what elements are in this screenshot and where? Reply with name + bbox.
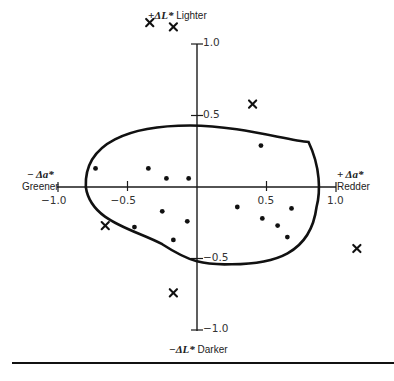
y-negative-symbol: −ΔL*: [169, 343, 195, 355]
rejected-point-cross-icon: [170, 289, 177, 296]
accepted-point: [275, 223, 280, 228]
accepted-point: [146, 166, 151, 171]
rejected-point-cross-icon: [249, 100, 256, 107]
accepted-point: [186, 176, 191, 181]
rejected-point-cross-icon: [102, 222, 109, 229]
accepted-point: [164, 176, 169, 181]
y-positive-title: +ΔL* Lighter: [148, 10, 207, 21]
rejected-points: [102, 19, 361, 296]
x-positive-symbol: + Δa*: [337, 169, 370, 180]
x-positive-title: + Δa* Redder: [337, 169, 370, 192]
x-tick-label: −0.5: [111, 195, 137, 206]
accepted-point: [185, 219, 190, 224]
y-positive-word: Lighter: [176, 10, 207, 21]
accepted-point: [235, 205, 240, 210]
accepted-point: [93, 166, 98, 171]
axes: [57, 44, 336, 331]
accepted-point: [259, 143, 264, 148]
tolerance-scatter-chart: [0, 0, 394, 381]
y-tick-label: −0.5: [203, 252, 229, 263]
x-negative-word: Greener: [22, 182, 59, 192]
rejected-point-cross-icon: [353, 245, 360, 252]
rejected-point-cross-icon: [170, 23, 177, 30]
x-positive-word: Redder: [337, 182, 370, 192]
x-tick-label: 0.5: [258, 195, 275, 206]
accepted-point: [132, 225, 137, 230]
y-tick-label: 1.0: [203, 37, 220, 48]
x-negative-title: − Δa* Greener: [22, 169, 59, 192]
accepted-point: [260, 216, 265, 221]
y-negative-word: Darker: [198, 344, 228, 355]
x-tick-label: 1.0: [327, 195, 344, 206]
accepted-point: [160, 209, 165, 214]
x-tick-label: −1.0: [41, 195, 67, 206]
y-tick-label: −1.0: [203, 323, 229, 334]
accepted-point: [171, 238, 176, 243]
accepted-point: [285, 235, 290, 240]
y-negative-title: −ΔL* Darker: [169, 344, 228, 355]
y-tick-label: 0.5: [203, 109, 220, 120]
bottom-rule: [12, 362, 394, 364]
y-positive-symbol: +ΔL*: [148, 9, 173, 21]
x-negative-symbol: − Δa*: [22, 169, 59, 180]
accepted-point: [289, 206, 294, 211]
